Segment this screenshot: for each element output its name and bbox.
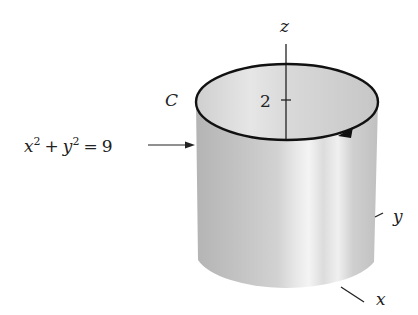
surface-equation: x2+y2=9 — [24, 135, 113, 156]
surface-pointer-arrow-icon — [185, 142, 195, 149]
curve-label: C — [165, 90, 178, 110]
z-axis-label: z — [279, 16, 290, 36]
x-axis — [341, 287, 364, 302]
y-axis-label: y — [392, 206, 403, 226]
x-axis-label: x — [376, 289, 386, 309]
y-axis — [375, 213, 383, 217]
cylinder-diagram: z 2 C y x x2+y2=9 — [0, 0, 418, 315]
z-tick-label: 2 — [260, 91, 271, 111]
